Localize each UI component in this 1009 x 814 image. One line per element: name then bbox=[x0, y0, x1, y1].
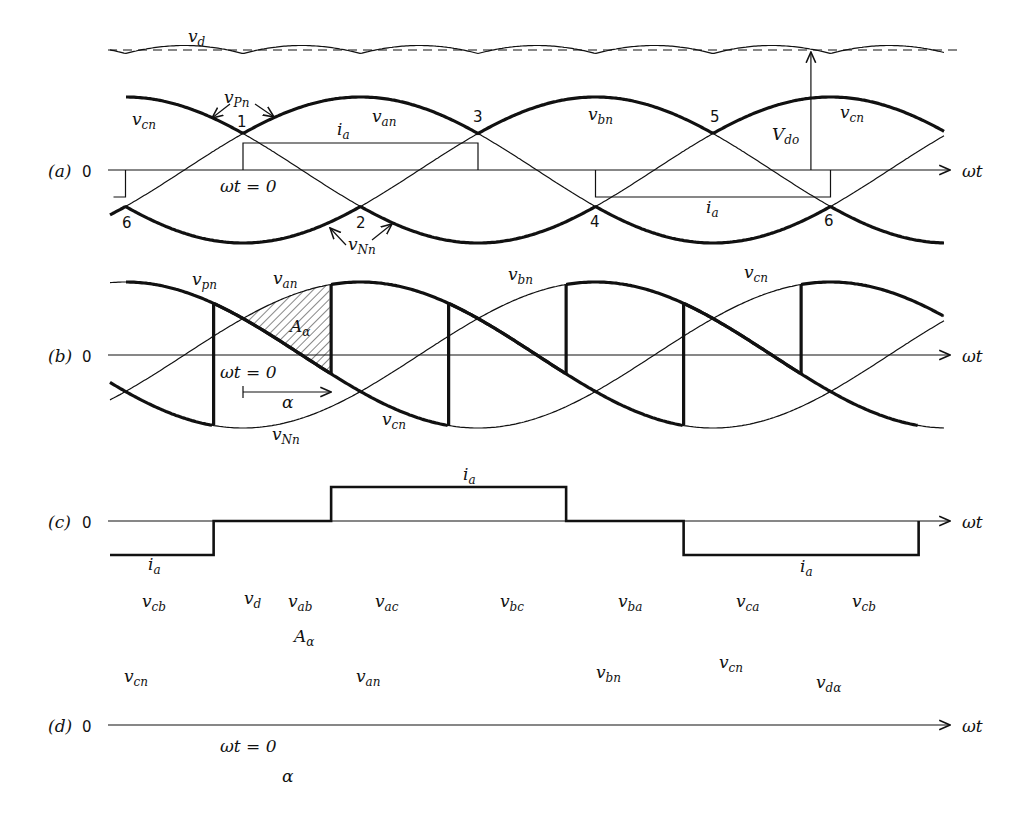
ia-pulse-pos-a bbox=[243, 143, 478, 170]
vNn-envelope bbox=[110, 207, 944, 243]
zero-label-b: 0 bbox=[82, 348, 92, 366]
label-vbn-a: vbn bbox=[588, 104, 613, 127]
label-van-b: van bbox=[273, 268, 298, 291]
label-alpha-b: α bbox=[282, 392, 294, 412]
label-vcn-a: vcn bbox=[132, 109, 156, 132]
vpn-delayed-3 bbox=[801, 282, 943, 316]
label-ia-c2: ia bbox=[148, 554, 161, 577]
axis-label-b: ωt bbox=[962, 346, 983, 366]
label-vba: vba bbox=[618, 591, 642, 614]
label-vPn: vPn bbox=[224, 87, 249, 110]
rectifier-waveform-figure: (a) (b) (c) (d) 0 0 0 0 ωt ωt ωt ωt vd v… bbox=[0, 0, 1009, 814]
point-2: 2 bbox=[356, 214, 366, 232]
label-Aalpha-d: Aα bbox=[292, 626, 314, 649]
label-ia-a2: ia bbox=[706, 197, 719, 220]
label-wt0-d: ωt = 0 bbox=[220, 736, 277, 756]
zero-label-d: 0 bbox=[82, 718, 92, 736]
label-vpn-b: vpn bbox=[192, 269, 217, 292]
axis-label-c: ωt bbox=[962, 512, 983, 532]
label-vNn-b: vNn bbox=[272, 424, 300, 447]
zero-label-a: 0 bbox=[82, 163, 92, 181]
label-vcn-d2: vcn bbox=[719, 652, 743, 675]
label-wt0-b: ωt = 0 bbox=[220, 362, 277, 382]
ia-pulse-neg-a bbox=[596, 170, 831, 197]
vPn-arrow-right bbox=[255, 104, 274, 117]
label-vNn: vNn bbox=[348, 234, 376, 257]
label-vca: vca bbox=[736, 591, 759, 614]
label-vcn-a2: vcn bbox=[840, 102, 864, 125]
A-alpha-hatched-area-b bbox=[243, 285, 331, 374]
label-vcn-d: vcn bbox=[124, 666, 148, 689]
label-ia-a1: ia bbox=[337, 119, 350, 142]
panel-tag-d: (d) bbox=[48, 716, 72, 736]
label-wt0-a: ωt = 0 bbox=[220, 176, 277, 196]
point-5: 5 bbox=[710, 108, 720, 126]
label-vbn-b: vbn bbox=[508, 264, 533, 287]
label-vbc: vbc bbox=[500, 591, 524, 614]
axis-label-a: ωt bbox=[962, 161, 983, 181]
point-1: 1 bbox=[237, 113, 247, 131]
panel-tag-b: (b) bbox=[48, 346, 72, 366]
label-vcb-d2: vcb bbox=[852, 591, 876, 614]
point-6-right: 6 bbox=[824, 212, 834, 230]
label-alpha-d: α bbox=[282, 766, 294, 786]
label-Vdo: Vdo bbox=[772, 124, 799, 147]
vNn-arrow-right bbox=[372, 224, 392, 240]
label-vab: vab bbox=[288, 591, 312, 614]
zero-label-c: 0 bbox=[82, 514, 92, 532]
panel-tag-c: (c) bbox=[48, 512, 71, 532]
label-vdalpha: vdα bbox=[816, 672, 841, 695]
vNn-delayed-0 bbox=[110, 382, 212, 425]
label-vcn-b: vcn bbox=[744, 262, 768, 285]
label-van-a: van bbox=[372, 106, 397, 129]
label-vcb-d1: vcb bbox=[142, 591, 166, 614]
vNn-arrow-left bbox=[330, 228, 346, 245]
point-6-left: 6 bbox=[122, 214, 132, 232]
label-vd-d: vd bbox=[244, 588, 262, 611]
label-ia-c3: ia bbox=[800, 556, 813, 579]
label-vd-top: vd bbox=[188, 26, 206, 49]
point-3: 3 bbox=[473, 108, 483, 126]
label-vbn-d: vbn bbox=[596, 662, 621, 685]
label-vac: vac bbox=[375, 591, 399, 614]
label-ia-c1: ia bbox=[463, 464, 476, 487]
point-4: 4 bbox=[590, 213, 600, 231]
label-van-d: van bbox=[356, 666, 381, 689]
panel-tag-a: (a) bbox=[48, 161, 71, 181]
axis-label-d: ωt bbox=[962, 716, 983, 736]
ia-pulse-neg-left-a bbox=[114, 170, 126, 197]
